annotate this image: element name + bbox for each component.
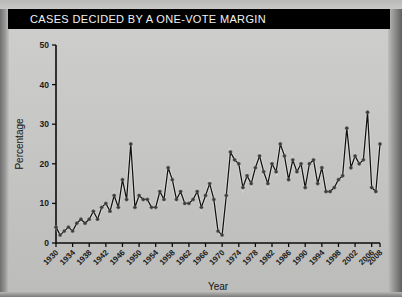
x-axis-title: Year: [208, 281, 229, 292]
data-point: [162, 198, 165, 201]
data-point: [287, 178, 290, 181]
data-point: [270, 162, 273, 165]
data-point: [191, 198, 194, 201]
data-point: [75, 222, 78, 225]
x-tick-label: 1970: [208, 248, 227, 267]
x-tick-label: 1954: [141, 248, 160, 267]
data-point: [262, 170, 265, 173]
data-point: [166, 166, 169, 169]
data-point: [320, 166, 323, 169]
data-point: [328, 190, 331, 193]
data-point: [358, 162, 361, 165]
x-tick-label: 1998: [324, 248, 343, 267]
x-tick-label: 1990: [291, 248, 310, 267]
line-chart: 01020304050Percentage1930193419381942194…: [9, 29, 388, 292]
data-point: [374, 190, 377, 193]
y-tick-label: 50: [40, 40, 50, 50]
y-tick-label: 0: [44, 238, 49, 248]
data-point: [208, 182, 211, 185]
data-point: [283, 154, 286, 157]
x-tick-label: 1958: [158, 248, 177, 267]
data-point: [104, 202, 107, 205]
x-tick-label: 1930: [41, 248, 60, 267]
data-point: [204, 194, 207, 197]
data-point: [229, 150, 232, 153]
data-point: [129, 142, 132, 145]
data-point: [125, 198, 128, 201]
series-glow: [56, 112, 380, 235]
data-point: [366, 111, 369, 114]
data-point: [100, 206, 103, 209]
x-tick-label: 1966: [191, 248, 210, 267]
series-line: [56, 112, 380, 235]
data-point: [54, 225, 57, 228]
data-point: [63, 229, 66, 232]
y-tick-label: 40: [40, 80, 50, 90]
page-left-edge: [0, 0, 9, 297]
y-tick-label: 10: [40, 198, 50, 208]
data-point: [183, 202, 186, 205]
x-tick-label: 1994: [307, 248, 326, 267]
data-point: [237, 162, 240, 165]
data-point: [158, 190, 161, 193]
x-tick-label: 2002: [341, 248, 360, 267]
x-tick-label: 1982: [257, 248, 276, 267]
page-right-edge: [388, 0, 402, 297]
data-point: [112, 194, 115, 197]
chart-page: CASES DECIDED BY A ONE-VOTE MARGIN 01020…: [0, 0, 402, 297]
data-point: [200, 206, 203, 209]
x-tick-label: 1950: [125, 248, 144, 267]
data-point: [279, 142, 282, 145]
data-point: [274, 170, 277, 173]
x-tick-label: 1986: [274, 248, 293, 267]
data-point: [71, 229, 74, 232]
y-tick-label: 20: [40, 159, 50, 169]
data-point: [121, 178, 124, 181]
chart-title-bar: CASES DECIDED BY A ONE-VOTE MARGIN: [8, 9, 390, 29]
data-point: [308, 162, 311, 165]
data-point: [83, 222, 86, 225]
data-point: [225, 194, 228, 197]
data-point: [254, 166, 257, 169]
data-point: [233, 158, 236, 161]
data-point: [250, 182, 253, 185]
data-point: [216, 229, 219, 232]
data-point: [67, 225, 70, 228]
x-tick-label: 1978: [241, 248, 260, 267]
data-point: [337, 178, 340, 181]
data-point: [150, 206, 153, 209]
page-top-edge: [0, 0, 402, 9]
data-point: [146, 198, 149, 201]
data-point: [312, 158, 315, 161]
plot-area: 01020304050Percentage1930193419381942194…: [9, 29, 388, 292]
x-tick-label: 1934: [58, 248, 77, 267]
data-point: [241, 186, 244, 189]
y-axis-title: Percentage: [14, 118, 25, 170]
data-point: [299, 162, 302, 165]
data-point: [324, 190, 327, 193]
data-point: [333, 186, 336, 189]
page-bottom-edge: [0, 292, 402, 297]
data-point: [220, 233, 223, 236]
data-point: [212, 198, 215, 201]
data-point: [137, 194, 140, 197]
data-point: [362, 158, 365, 161]
data-point: [266, 182, 269, 185]
data-point: [108, 210, 111, 213]
data-point: [154, 206, 157, 209]
data-point: [304, 186, 307, 189]
data-point: [370, 186, 373, 189]
data-point: [179, 190, 182, 193]
data-point: [171, 178, 174, 181]
data-point: [117, 206, 120, 209]
x-tick-label: 1974: [224, 248, 243, 267]
data-point: [88, 218, 91, 221]
data-point: [295, 170, 298, 173]
x-tick-label: 1942: [91, 248, 110, 267]
x-tick-label: 1946: [108, 248, 127, 267]
data-point: [341, 174, 344, 177]
data-point: [245, 174, 248, 177]
data-point: [58, 233, 61, 236]
data-point: [258, 154, 261, 157]
data-point: [142, 198, 145, 201]
